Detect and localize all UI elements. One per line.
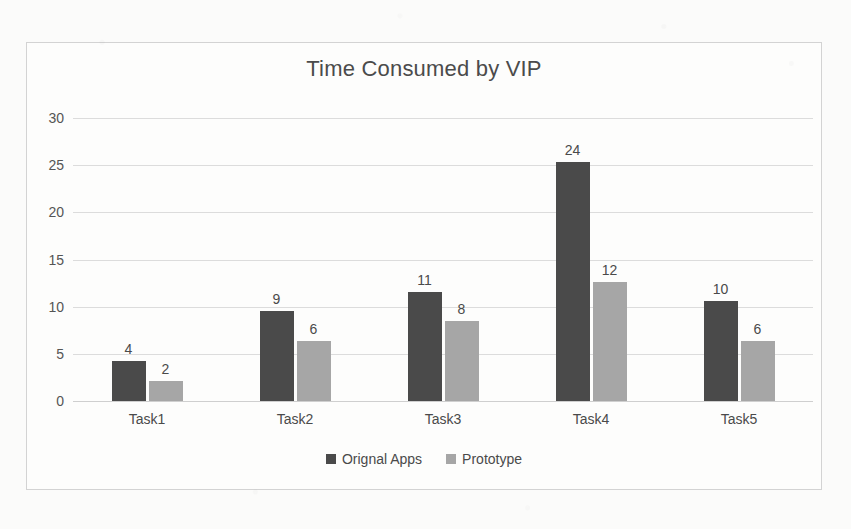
chart-legend: Orignal AppsPrototype — [27, 451, 821, 467]
bar-task1-orignal-apps[interactable] — [112, 361, 146, 401]
legend-item-label: Orignal Apps — [342, 451, 422, 467]
bar-group: 106Task5 — [665, 118, 813, 401]
bar-group: 118Task3 — [369, 118, 517, 401]
bar-slot: 9 — [260, 118, 294, 401]
y-axis-tick-label: 15 — [48, 252, 64, 268]
bar-task3-orignal-apps[interactable] — [408, 292, 442, 401]
x-axis-category-label: Task5 — [721, 411, 758, 427]
gridline — [73, 401, 813, 402]
bar-slot: 6 — [297, 118, 331, 401]
bar-value-label: 12 — [602, 262, 618, 278]
y-axis-tick-label: 5 — [56, 346, 64, 362]
bar-value-label: 11 — [417, 272, 432, 288]
legend-item-label: Prototype — [462, 451, 522, 467]
legend-swatch-icon — [326, 454, 336, 464]
bar-value-label: 9 — [273, 291, 281, 307]
bar-groups: 42Task196Task2118Task32412Task4106Task5 — [73, 118, 813, 401]
y-axis-tick-label: 25 — [48, 157, 64, 173]
bar-slot: 4 — [112, 118, 146, 401]
bar-slot: 6 — [741, 118, 775, 401]
bar-task2-prototype[interactable] — [297, 341, 331, 401]
legend-item-prototype[interactable]: Prototype — [446, 451, 522, 467]
x-axis-category-label: Task4 — [573, 411, 610, 427]
bar-value-label: 10 — [713, 281, 729, 297]
bar-task4-prototype[interactable] — [593, 282, 627, 401]
bar-value-label: 2 — [162, 361, 170, 377]
y-axis-tick-label: 30 — [48, 110, 64, 126]
y-axis-tick-label: 0 — [56, 393, 64, 409]
bar-value-label: 4 — [125, 341, 133, 357]
y-axis-tick-label: 10 — [48, 299, 64, 315]
bar-task5-orignal-apps[interactable] — [704, 301, 738, 401]
bar-group: 96Task2 — [221, 118, 369, 401]
chart-title: Time Consumed by VIP — [27, 56, 821, 82]
bar-slot: 10 — [704, 118, 738, 401]
bar-group: 2412Task4 — [517, 118, 665, 401]
plot-area: 051015202530 42Task196Task2118Task32412T… — [73, 118, 813, 401]
bar-value-label: 6 — [310, 321, 318, 337]
chart-frame: Time Consumed by VIP 051015202530 42Task… — [26, 42, 822, 490]
bar-task3-prototype[interactable] — [445, 321, 479, 401]
bar-value-label: 8 — [458, 301, 466, 317]
legend-item-orignal-apps[interactable]: Orignal Apps — [326, 451, 422, 467]
x-axis-category-label: Task1 — [129, 411, 166, 427]
x-axis-category-label: Task3 — [425, 411, 462, 427]
bar-task4-orignal-apps[interactable] — [556, 162, 590, 401]
bar-slot: 11 — [408, 118, 442, 401]
bar-slot: 8 — [445, 118, 479, 401]
legend-swatch-icon — [446, 454, 456, 464]
bar-slot: 24 — [556, 118, 590, 401]
bar-slot: 12 — [593, 118, 627, 401]
y-axis-tick-label: 20 — [48, 204, 64, 220]
bar-value-label: 6 — [754, 321, 762, 337]
x-axis-category-label: Task2 — [277, 411, 314, 427]
bar-group: 42Task1 — [73, 118, 221, 401]
bar-task1-prototype[interactable] — [149, 381, 183, 401]
bar-slot: 2 — [149, 118, 183, 401]
bar-value-label: 24 — [565, 142, 581, 158]
bar-task2-orignal-apps[interactable] — [260, 311, 294, 401]
bar-task5-prototype[interactable] — [741, 341, 775, 401]
